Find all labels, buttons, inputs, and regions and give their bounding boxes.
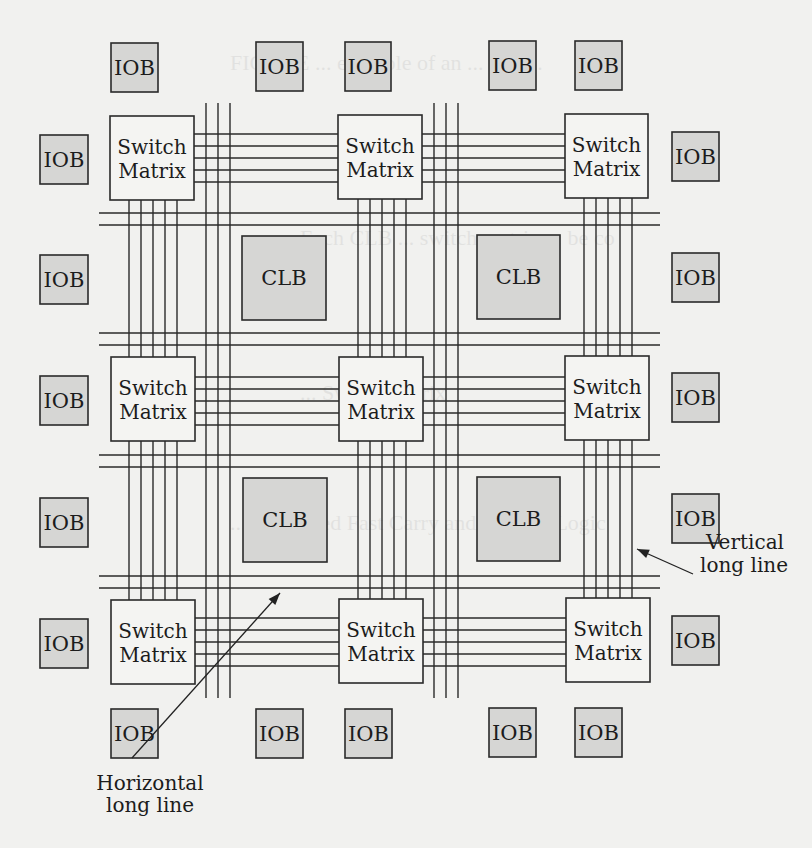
iob-block-label: IOB (44, 268, 85, 292)
iob-block-label: IOB (675, 507, 716, 531)
iob-block: IOB (489, 41, 536, 90)
iob-block: IOB (40, 376, 88, 425)
iob-block-label: IOB (578, 721, 619, 745)
iob-block-label: IOB (492, 721, 533, 745)
annotations: Vertical long line Horizontal long line (96, 530, 788, 817)
iob-block: IOB (672, 253, 719, 302)
switch-matrix-label: Switch (573, 617, 642, 641)
clb-block-label: CLB (262, 508, 307, 532)
clb-block-label: CLB (496, 265, 541, 289)
switch-matrix-label: Matrix (118, 159, 186, 183)
switch-matrix-label: Switch (572, 133, 641, 157)
switch-matrix-label: Matrix (347, 642, 415, 666)
switch-matrix-label: Matrix (573, 399, 641, 423)
iob-block-label: IOB (348, 722, 389, 746)
iob-block-label: IOB (675, 266, 716, 290)
switch-matrix-label: Matrix (346, 158, 414, 182)
iob-block: IOB (575, 708, 622, 757)
switch-matrix: SwitchMatrix (111, 357, 195, 441)
iob-block: IOB (672, 373, 719, 422)
switch-matrix-label: Matrix (347, 400, 415, 424)
iob-block-label: IOB (44, 389, 85, 413)
iob-block-label: IOB (492, 54, 533, 78)
clb-block: CLB (243, 478, 327, 562)
switch-matrix-label: Switch (572, 375, 641, 399)
arrowhead-icon (637, 549, 650, 558)
iob-block: IOB (345, 709, 392, 758)
switch-matrix-label: Switch (117, 135, 186, 159)
switch-matrix: SwitchMatrix (339, 599, 423, 683)
iob-block: IOB (672, 132, 719, 181)
clb-block-label: CLB (261, 266, 306, 290)
iob-block-label: IOB (44, 511, 85, 535)
switch-matrix-label: Matrix (119, 400, 187, 424)
vertical-long-line-label-1: Vertical (705, 530, 784, 554)
switch-matrix: SwitchMatrix (111, 600, 195, 684)
iob-block-label: IOB (259, 722, 300, 746)
switch-matrix-label: Switch (345, 134, 414, 158)
iob-block-label: IOB (675, 629, 716, 653)
switch-matrix: SwitchMatrix (338, 115, 422, 199)
switch-matrix-label: Matrix (573, 157, 641, 181)
iob-block: IOB (575, 41, 622, 90)
iob-block: IOB (345, 42, 391, 91)
switch-matrix-label: Switch (118, 376, 187, 400)
iob-block: IOB (40, 619, 88, 668)
vertical-long-line-annotation: Vertical long line (637, 530, 788, 577)
iob-block: IOB (111, 709, 158, 758)
clb-block: CLB (477, 235, 560, 319)
iob-block: IOB (256, 709, 303, 758)
iob-block-label: IOB (348, 55, 389, 79)
iob-block: IOB (256, 42, 303, 91)
iob-block: IOB (672, 616, 719, 665)
clb-block: CLB (477, 477, 560, 561)
switch-matrix: SwitchMatrix (565, 114, 648, 198)
logic-blocks: IOBIOBIOBIOBIOBIOBIOBIOBIOBIOBIOBIOBIOBI… (40, 41, 719, 758)
switch-matrix-label: Matrix (119, 643, 187, 667)
switch-matrix-label: Switch (346, 376, 415, 400)
horizontal-long-line-label-1: Horizontal (96, 771, 203, 795)
iob-block: IOB (40, 255, 88, 304)
iob-block: IOB (40, 135, 88, 184)
switch-matrix: SwitchMatrix (339, 357, 423, 441)
switch-matrix: SwitchMatrix (566, 598, 650, 682)
switch-matrix: SwitchMatrix (565, 356, 649, 440)
switch-matrix-label: Matrix (574, 641, 642, 665)
fpga-architecture-diagram: IOBIOBIOBIOBIOBIOBIOBIOBIOBIOBIOBIOBIOBI… (0, 0, 812, 848)
iob-block-label: IOB (44, 632, 85, 656)
switch-matrix-label: Switch (118, 619, 187, 643)
iob-block-label: IOB (259, 55, 300, 79)
iob-block-label: IOB (675, 145, 716, 169)
switch-matrix-label: Switch (346, 618, 415, 642)
iob-block-label: IOB (44, 148, 85, 172)
iob-block: IOB (489, 708, 536, 757)
vertical-long-line-label-2: long line (700, 553, 788, 577)
iob-block: IOB (40, 498, 88, 547)
iob-block: IOB (111, 43, 158, 92)
iob-block-label: IOB (578, 54, 619, 78)
clb-block-label: CLB (496, 507, 541, 531)
iob-block-label: IOB (114, 722, 155, 746)
clb-block: CLB (242, 236, 326, 320)
switch-matrix: SwitchMatrix (110, 116, 194, 200)
horizontal-long-line-label-2: long line (106, 793, 194, 817)
iob-block-label: IOB (675, 386, 716, 410)
iob-block-label: IOB (114, 56, 155, 80)
